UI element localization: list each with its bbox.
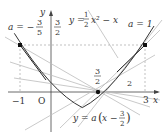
a-left-num: 3	[37, 18, 42, 27]
y-level-den: 2	[55, 28, 60, 37]
family-eq-lhs: y = a	[72, 113, 97, 123]
a-left-lhs: a = −	[8, 22, 34, 32]
x-axis-label: x	[153, 95, 158, 105]
pivot-num: 3	[95, 67, 100, 76]
line-a-one	[117, 45, 145, 72]
family-eq-den: 2	[120, 120, 124, 128]
curve-eq-rest: x² − x	[91, 15, 118, 25]
parabola-curve	[14, 26, 154, 108]
family-eq-paren-close: )	[126, 111, 131, 125]
graph-canvas: y x O −1 3 a = − 3 5 3 2 y = 1 2 x² − x …	[0, 0, 165, 134]
point-left	[18, 43, 22, 47]
a-left-den: 5	[37, 28, 42, 37]
a-right-label: a = 1	[128, 19, 152, 29]
mark-two: 2	[127, 79, 132, 88]
y-axis-arrow-icon	[49, 10, 53, 16]
tick-neg-one: −1	[12, 96, 25, 106]
curve-eq-lhs: y =	[68, 15, 85, 25]
origin-label: O	[38, 96, 45, 106]
point-right	[143, 43, 147, 47]
family-eq-x: x −	[102, 113, 117, 123]
y-level-num: 3	[55, 18, 60, 27]
line-a-neg-three-fifths	[20, 45, 46, 80]
point-pivot	[96, 90, 100, 94]
tick-three: 3	[143, 95, 149, 105]
curve-eq-den: 2	[84, 21, 88, 29]
y-axis-label: y	[39, 7, 46, 17]
pivot-den: 2	[95, 77, 100, 86]
curve-eq-num: 1	[84, 11, 88, 19]
x-axis-arrow-icon	[154, 90, 160, 94]
family-eq-num: 3	[120, 110, 124, 118]
